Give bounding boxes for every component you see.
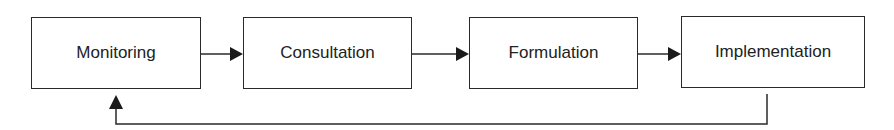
node-label: Formulation [509, 43, 599, 63]
node-label: Implementation [715, 42, 831, 62]
node-formulation: Formulation [469, 17, 638, 89]
arrowhead-icon [456, 47, 469, 61]
node-implementation: Implementation [681, 16, 865, 88]
node-consultation: Consultation [243, 17, 412, 89]
node-label: Consultation [280, 43, 375, 63]
node-label: Monitoring [76, 43, 155, 63]
feedback-loop-arrow [116, 94, 767, 124]
arrowhead-icon [230, 47, 243, 61]
arrowhead-icon [668, 47, 681, 61]
node-monitoring: Monitoring [31, 17, 201, 89]
arrowhead-up-icon [109, 95, 123, 109]
